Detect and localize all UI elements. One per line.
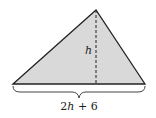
triangle (13, 10, 145, 84)
height-label: h (85, 44, 92, 57)
base-label: 2h + 6 (60, 100, 97, 113)
triangle-diagram: h 2h + 6 (0, 0, 156, 118)
base-brace (13, 86, 145, 98)
